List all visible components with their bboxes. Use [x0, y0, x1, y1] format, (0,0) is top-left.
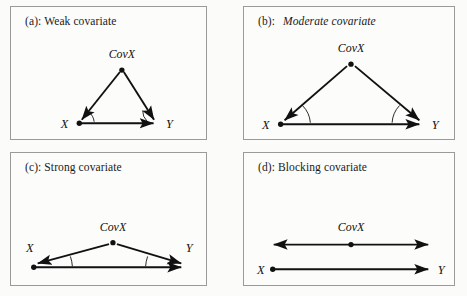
panel-b-edge-covx-x: [285, 66, 347, 120]
panel-a-label-x: X: [60, 117, 69, 131]
panel-a-diagram: CovX X Y: [11, 7, 206, 139]
panel-b-angle-arc-y: [392, 106, 399, 123]
panel-c-label-y: Y: [186, 242, 194, 256]
panel-b-angle-arc-x: [302, 106, 310, 123]
panel-b-node-covx: [348, 61, 353, 66]
panel-c-label-x: X: [25, 242, 34, 256]
panel-c-node-x: [31, 265, 36, 270]
panel-a-label-covx: CovX: [109, 47, 136, 61]
panel-a-node-x: [77, 121, 82, 126]
panel-c-edge-covx-y: [117, 244, 181, 263]
panel-c-node-covx: [110, 240, 115, 245]
panel-d-label-x: X: [256, 263, 265, 277]
figure-root: (a): Weak covariate: [0, 0, 467, 296]
panel-b-edge-covx-y: [355, 66, 419, 120]
panel-b-node-x: [278, 122, 283, 127]
panel-b-label-covx: CovX: [338, 41, 365, 55]
panel-a-label-y: Y: [166, 117, 174, 131]
panel-d-node-x: [270, 267, 275, 272]
panel-c-edge-covx-x: [38, 244, 109, 263]
panel-d: (d): Blocking covariate: [243, 152, 455, 286]
panel-c-diagram: CovX X Y: [11, 153, 206, 285]
panel-a-edge-covx-x: [82, 72, 120, 120]
panel-c-label-covx: CovX: [100, 220, 127, 234]
panel-b-label-y: Y: [432, 118, 440, 132]
panel-b-diagram: CovX X Y: [244, 7, 454, 139]
panel-a: (a): Weak covariate: [10, 6, 207, 140]
panel-a-angle-arc-x: [89, 112, 94, 122]
panel-c: (c): Strong covariate: [10, 152, 207, 286]
panel-a-edge-covx-y: [124, 72, 154, 120]
panel-d-label-y: Y: [438, 263, 446, 277]
panel-b: (b): Moderate covariate: [243, 6, 455, 140]
panel-d-node-covx: [348, 242, 353, 247]
panel-a-angle-arc-y: [143, 110, 147, 121]
panel-d-label-covx: CovX: [338, 220, 365, 234]
panel-a-node-covx: [119, 67, 124, 72]
panel-d-diagram: CovX X Y: [244, 153, 454, 285]
panel-c-angle-arc-x: [70, 256, 72, 266]
panel-c-angle-arc-y: [146, 256, 148, 266]
panel-b-label-x: X: [261, 118, 270, 132]
